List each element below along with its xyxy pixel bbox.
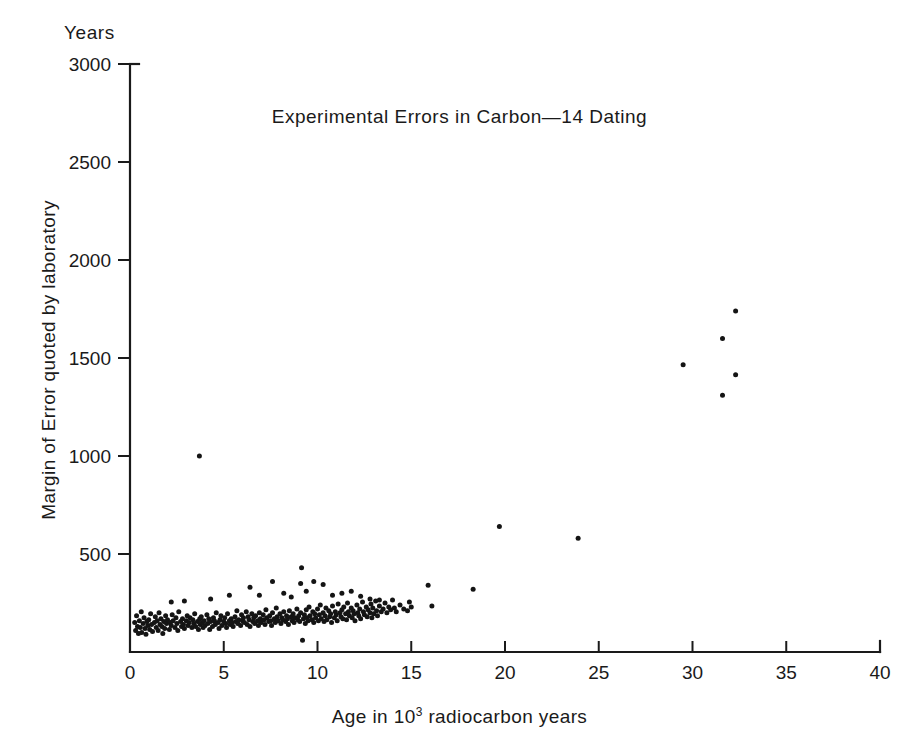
data-point — [720, 393, 725, 398]
data-point — [426, 583, 431, 588]
data-point — [471, 587, 476, 592]
data-point — [429, 603, 434, 608]
data-point — [197, 454, 202, 459]
data-point — [231, 624, 236, 629]
x-tick-label-20: 20 — [494, 662, 515, 683]
data-point — [336, 601, 341, 606]
data-point — [146, 617, 151, 622]
data-point — [192, 611, 197, 616]
data-point — [353, 618, 358, 623]
data-point — [196, 627, 201, 632]
data-point — [157, 610, 162, 615]
data-point — [681, 362, 686, 367]
data-point — [398, 602, 403, 607]
x-tick-label-40: 40 — [869, 662, 890, 683]
data-point — [328, 611, 333, 616]
y-tick-label-1000: 1000 — [69, 446, 111, 467]
data-point — [160, 631, 165, 636]
data-point — [182, 599, 187, 604]
data-point — [349, 589, 354, 594]
data-point — [377, 598, 382, 603]
data-point — [311, 620, 316, 625]
data-point — [294, 606, 299, 611]
data-point — [733, 308, 738, 313]
chart-figure: Years Experimental Errors in Carbon—14 D… — [0, 0, 919, 748]
data-point — [263, 607, 268, 612]
data-point — [148, 611, 153, 616]
data-point — [409, 604, 414, 609]
data-point — [234, 608, 239, 613]
data-point — [374, 608, 379, 613]
data-point — [358, 594, 363, 599]
tick-labels: 051015202530354050010001500200025003000 — [69, 54, 891, 683]
data-point — [381, 606, 386, 611]
data-point — [339, 591, 344, 596]
data-point — [733, 372, 738, 377]
data-point — [330, 603, 335, 608]
data-point — [335, 618, 340, 623]
data-point — [375, 613, 380, 618]
data-point — [248, 624, 253, 629]
data-point — [289, 595, 294, 600]
data-point — [300, 638, 305, 643]
data-point — [173, 615, 178, 620]
x-tick-label-25: 25 — [588, 662, 609, 683]
data-point — [360, 600, 365, 605]
data-points — [132, 308, 738, 642]
y-tick-label-2500: 2500 — [69, 152, 111, 173]
x-tick-label-30: 30 — [682, 662, 703, 683]
x-tick-label-5: 5 — [218, 662, 229, 683]
data-point — [330, 593, 335, 598]
y-tick-label-500: 500 — [79, 544, 111, 565]
data-point — [318, 602, 323, 607]
data-point — [143, 632, 148, 637]
data-point — [720, 336, 725, 341]
data-point — [383, 601, 388, 606]
data-point — [176, 609, 181, 614]
data-point — [214, 610, 219, 615]
data-point — [311, 579, 316, 584]
x-tick-label-35: 35 — [776, 662, 797, 683]
data-point — [299, 565, 304, 570]
data-point — [150, 629, 155, 634]
data-point — [169, 600, 174, 605]
data-point — [407, 600, 412, 605]
data-point — [286, 622, 291, 627]
data-point — [497, 524, 502, 529]
data-point — [345, 601, 350, 606]
data-point — [576, 536, 581, 541]
data-point — [341, 604, 346, 609]
data-point — [270, 610, 275, 615]
data-point — [208, 597, 213, 602]
data-point — [227, 593, 232, 598]
data-point — [321, 582, 326, 587]
data-point — [298, 581, 303, 586]
data-point — [139, 609, 144, 614]
data-point — [405, 608, 410, 613]
data-point — [156, 628, 161, 633]
x-tick-label-15: 15 — [401, 662, 422, 683]
axes — [130, 64, 880, 652]
data-point — [304, 589, 309, 594]
data-point — [175, 628, 180, 633]
data-point — [139, 630, 144, 635]
data-point — [257, 593, 262, 598]
data-point — [390, 598, 395, 603]
data-point — [307, 604, 312, 609]
data-point — [281, 591, 286, 596]
y-tick-label-3000: 3000 — [69, 54, 111, 75]
data-point — [241, 615, 246, 620]
x-tick-label-0: 0 — [125, 662, 136, 683]
data-point — [244, 609, 249, 614]
data-point — [134, 613, 139, 618]
data-point — [274, 605, 279, 610]
scatter-plot-canvas: 051015202530354050010001500200025003000 — [0, 0, 919, 748]
data-point — [225, 611, 230, 616]
data-point — [248, 585, 253, 590]
data-point — [358, 616, 363, 621]
data-point — [270, 579, 275, 584]
data-point — [329, 620, 334, 625]
y-tick-label-2000: 2000 — [69, 250, 111, 271]
data-point — [394, 609, 399, 614]
x-tick-label-10: 10 — [307, 662, 328, 683]
